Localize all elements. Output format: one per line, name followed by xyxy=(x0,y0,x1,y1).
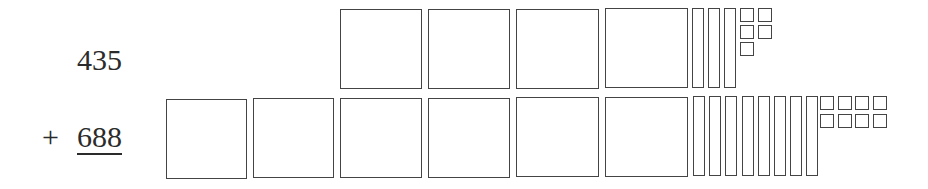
one-cube xyxy=(820,114,834,128)
one-cube xyxy=(838,114,852,128)
ten-rod xyxy=(709,96,721,176)
hundred-block xyxy=(428,98,510,178)
ten-rod xyxy=(724,8,736,88)
ten-rod xyxy=(790,96,802,176)
ten-rod xyxy=(774,96,786,176)
ten-rod xyxy=(806,96,818,176)
ten-rod xyxy=(708,8,720,88)
hundred-block xyxy=(340,98,422,178)
ten-rod xyxy=(693,96,705,176)
one-cube xyxy=(740,42,754,56)
ten-rod xyxy=(692,8,704,88)
ten-rod xyxy=(758,96,770,176)
one-cube xyxy=(873,114,887,128)
hundred-block xyxy=(340,9,422,89)
one-cube xyxy=(758,8,772,22)
one-cube xyxy=(758,25,772,39)
ten-rod xyxy=(725,96,737,176)
one-cube xyxy=(855,114,869,128)
one-cube xyxy=(740,25,754,39)
ten-rod xyxy=(742,96,754,176)
plus-operator: + xyxy=(42,122,59,152)
one-cube xyxy=(740,8,754,22)
hundred-block xyxy=(605,8,688,88)
hundred-block xyxy=(428,9,510,89)
hundred-block xyxy=(166,99,247,179)
one-cube xyxy=(820,96,834,110)
hundred-block xyxy=(516,97,599,177)
hundred-block xyxy=(516,9,599,89)
one-cube xyxy=(838,96,852,110)
hundred-block xyxy=(253,98,334,178)
top-number: 435 xyxy=(77,45,122,75)
bottom-number: 688 xyxy=(77,122,122,152)
one-cube xyxy=(873,96,887,110)
one-cube xyxy=(855,96,869,110)
hundred-block xyxy=(605,97,688,177)
